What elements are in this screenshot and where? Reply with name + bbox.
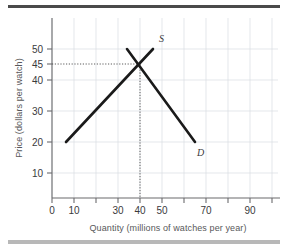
x-tick-label-50: 50 (156, 205, 168, 216)
x-tick-label-10: 10 (68, 205, 80, 216)
x-axis-ticks (52, 198, 272, 203)
supply-demand-chart: 10 20 30 40 45 50 0 10 30 40 50 70 90 S … (0, 0, 288, 250)
x-axis-title: Quantity (millions of watches per year) (90, 223, 247, 233)
y-tick-label-50: 50 (32, 44, 44, 55)
figure-container: 10 20 30 40 45 50 0 10 30 40 50 70 90 S … (0, 0, 288, 250)
demand-curve-label: D (196, 147, 205, 158)
vertical-gridlines (52, 18, 272, 198)
y-tick-label-45: 45 (32, 59, 44, 70)
y-tick-label-10: 10 (32, 168, 44, 179)
y-tick-label-30: 30 (32, 106, 44, 117)
horizontal-gridlines (52, 49, 278, 173)
y-axis-ticks (47, 49, 52, 173)
x-tick-label-90: 90 (244, 205, 256, 216)
y-axis-title: Price (dollars per watch) (14, 58, 24, 158)
bottom-divider-rule (8, 240, 280, 244)
x-tick-label-70: 70 (200, 205, 212, 216)
x-tick-label-30: 30 (112, 205, 124, 216)
x-tick-label-0: 0 (49, 205, 55, 216)
x-tick-label-40: 40 (134, 205, 146, 216)
supply-curve-label: S (159, 33, 164, 44)
y-tick-label-40: 40 (32, 75, 44, 86)
demand-curve (127, 49, 195, 142)
y-tick-label-20: 20 (32, 137, 44, 148)
